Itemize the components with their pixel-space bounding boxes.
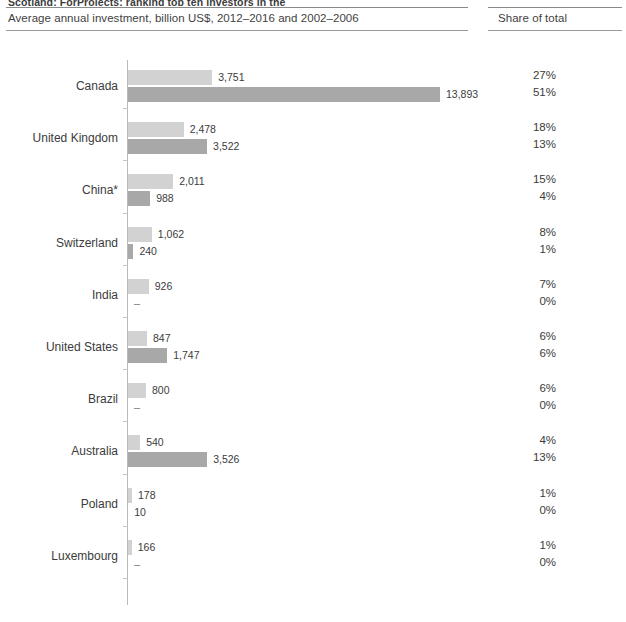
- category-label: Luxembourg: [0, 549, 118, 563]
- category-label: India: [0, 288, 118, 302]
- bar-value-label: –: [134, 558, 140, 570]
- bar-value-label: 2,478: [190, 123, 216, 135]
- bar-2012–2016: [128, 227, 152, 242]
- bar-group: Canada3,75127%13,89351%: [0, 62, 626, 114]
- subheader-rule-right: [488, 30, 622, 31]
- share-of-total-value: 51%: [486, 86, 556, 98]
- bar-2012–2016: [128, 122, 184, 137]
- bar-2002–2006: [128, 191, 150, 206]
- bar-2012–2016: [128, 383, 146, 398]
- bar-group: Brazil8006%–0%: [0, 375, 626, 427]
- share-of-total-value: 1%: [486, 487, 556, 499]
- share-of-total-value: 4%: [486, 434, 556, 446]
- bar-group: United Kingdom2,47818%3,52213%: [0, 114, 626, 166]
- category-label: Switzerland: [0, 236, 118, 250]
- bar-group: Luxembourg1661%–0%: [0, 532, 626, 584]
- bar-value-label: 926: [155, 280, 173, 292]
- share-of-total-value: 0%: [486, 399, 556, 411]
- bar-value-label: 13,893: [446, 88, 478, 100]
- bar-value-label: 2,011: [179, 175, 205, 187]
- bar-2012–2016: [128, 540, 132, 555]
- bar-group: Poland1781%100%: [0, 480, 626, 532]
- category-label: United States: [0, 340, 118, 354]
- share-of-total-value: 8%: [486, 226, 556, 238]
- share-of-total-value: 7%: [486, 278, 556, 290]
- share-of-total-value: 18%: [486, 121, 556, 133]
- bar-group: China*2,01115%9884%: [0, 166, 626, 218]
- bar-value-label: 847: [153, 332, 171, 344]
- bar-2012–2016: [128, 435, 140, 450]
- category-label: China*: [0, 183, 118, 197]
- category-label: United Kingdom: [0, 131, 118, 145]
- bar-value-label: 178: [138, 489, 156, 501]
- bar-2012–2016: [128, 174, 173, 189]
- bar-2002–2006: [128, 452, 207, 467]
- bar-2002–2006: [128, 348, 167, 363]
- plot-area: Canada3,75127%13,89351%United Kingdom2,4…: [0, 44, 626, 604]
- bar-value-label: 10: [134, 506, 146, 518]
- share-of-total-value: 6%: [486, 347, 556, 359]
- subheader-rule-left: [6, 30, 468, 31]
- share-of-total-value: 6%: [486, 382, 556, 394]
- bar-2002–2006: [128, 244, 133, 259]
- share-of-total-value: 27%: [486, 69, 556, 81]
- bar-value-label: 166: [138, 541, 156, 553]
- share-of-total-value: 0%: [486, 556, 556, 568]
- category-label: Canada: [0, 79, 118, 93]
- bar-value-label: 3,526: [213, 453, 239, 465]
- share-of-total-value: 1%: [486, 539, 556, 551]
- bar-value-label: 240: [139, 245, 157, 257]
- bar-2002–2006: [128, 139, 207, 154]
- bar-value-label: 988: [156, 192, 174, 204]
- bar-2012–2016: [128, 279, 149, 294]
- share-of-total-value: 13%: [486, 138, 556, 150]
- chart-subtitle: Average annual investment, billion US$, …: [8, 12, 359, 24]
- bar-value-label: –: [134, 297, 140, 309]
- share-of-total-value: 0%: [486, 504, 556, 516]
- bar-2012–2016: [128, 331, 147, 346]
- share-of-total-value: 1%: [486, 243, 556, 255]
- bar-2012–2016: [128, 488, 132, 503]
- bar-group: Australia5404%3,52613%: [0, 427, 626, 479]
- share-of-total-value: 6%: [486, 330, 556, 342]
- bar-value-label: 800: [152, 384, 170, 396]
- bar-value-label: 1,747: [173, 349, 199, 361]
- bar-value-label: 3,751: [218, 71, 244, 83]
- category-label: Poland: [0, 497, 118, 511]
- header-rule-left: [6, 7, 468, 8]
- bar-group: India9267%–0%: [0, 271, 626, 323]
- bar-value-label: 3,522: [213, 140, 239, 152]
- bar-value-label: 1,062: [158, 228, 184, 240]
- bar-value-label: –: [134, 401, 140, 413]
- bar-2002–2006: [128, 87, 440, 102]
- chart-sheet: Scotland: ForProjects: ranking top ten i…: [0, 0, 626, 622]
- bar-value-label: 540: [146, 436, 164, 448]
- category-label: Brazil: [0, 392, 118, 406]
- share-of-total-value: 4%: [486, 190, 556, 202]
- category-label: Australia: [0, 444, 118, 458]
- bar-2012–2016: [128, 70, 212, 85]
- share-of-total-header: Share of total: [498, 12, 567, 24]
- share-of-total-value: 0%: [486, 295, 556, 307]
- header-rule-right: [488, 7, 622, 8]
- cut-off-document-title: Scotland: ForProjects: ranking top ten i…: [8, 0, 478, 6]
- bar-group: Switzerland1,0628%2401%: [0, 219, 626, 271]
- share-of-total-value: 13%: [486, 451, 556, 463]
- bar-group: United States8476%1,7476%: [0, 323, 626, 375]
- share-of-total-value: 15%: [486, 173, 556, 185]
